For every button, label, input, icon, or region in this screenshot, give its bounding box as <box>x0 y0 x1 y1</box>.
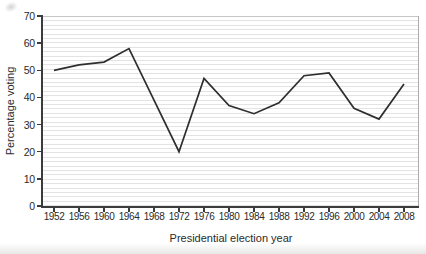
x-tick-label: 1984 <box>241 212 267 222</box>
y-tick-mark <box>37 205 41 207</box>
x-tick-label: 2004 <box>366 212 392 222</box>
plot-area <box>42 16 419 206</box>
y-tick-mark <box>37 178 41 180</box>
x-tick-label: 1980 <box>216 212 242 222</box>
x-tick-label: 1976 <box>191 212 217 222</box>
scan-shadow-artifact <box>0 243 426 254</box>
x-tick-label: 1988 <box>266 212 292 222</box>
chart-figure: 010203040506070 195219561960196419681972… <box>0 0 426 254</box>
x-tick-label: 1964 <box>116 212 142 222</box>
x-tick-label: 1960 <box>91 212 117 222</box>
y-tick-mark <box>37 151 41 153</box>
y-tick-mark <box>37 15 41 17</box>
y-tick-mark <box>37 42 41 44</box>
plot-right-border <box>418 16 419 206</box>
x-tick-label: 2000 <box>341 212 367 222</box>
y-tick-label: 10 <box>11 174 35 184</box>
y-tick-mark <box>37 124 41 126</box>
x-tick-label: 2008 <box>391 212 417 222</box>
y-tick-mark <box>37 70 41 72</box>
y-tick-mark <box>37 97 41 99</box>
x-tick-label: 1996 <box>316 212 342 222</box>
y-tick-label: 60 <box>11 38 35 48</box>
y-axis-title: Percentage voting <box>4 67 16 156</box>
y-tick-label: 0 <box>11 201 35 211</box>
x-tick-label: 1956 <box>66 212 92 222</box>
y-tick-label: 70 <box>11 11 35 21</box>
x-tick-label: 1952 <box>41 212 67 222</box>
x-tick-label: 1968 <box>141 212 167 222</box>
plot-top-border <box>42 16 419 17</box>
x-tick-label: 1992 <box>291 212 317 222</box>
x-tick-label: 1972 <box>166 212 192 222</box>
